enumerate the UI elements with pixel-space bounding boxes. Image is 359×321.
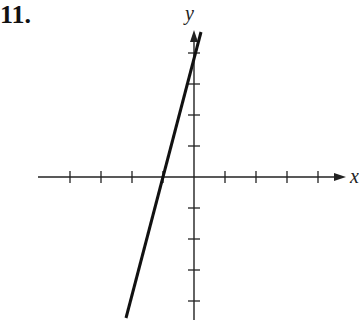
x-axis-arrow-icon xyxy=(334,173,346,181)
x-axis xyxy=(38,173,346,181)
y-axis-arrow-icon xyxy=(190,30,198,42)
graphed-line xyxy=(126,32,201,318)
